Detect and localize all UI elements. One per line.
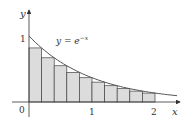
x-axis-label: x (172, 106, 178, 117)
riemann-rectangle (29, 48, 42, 102)
riemann-rectangle (67, 72, 80, 102)
y-tick-1-label: 1 (20, 34, 26, 44)
origin-label: 0 (19, 105, 25, 115)
riemann-rectangle (130, 91, 143, 102)
riemann-rectangles (29, 48, 155, 102)
riemann-sum-diagram: y x 0 1 1 2 y = e−x (0, 0, 193, 127)
function-label: y = e−x (55, 34, 89, 46)
x-tick-1-label: 1 (89, 107, 95, 117)
riemann-rectangle (54, 66, 67, 102)
riemann-rectangle (105, 86, 118, 102)
riemann-rectangle (117, 89, 130, 102)
y-axis-label: y (19, 8, 26, 19)
riemann-rectangle (79, 78, 92, 102)
riemann-rectangle (42, 58, 55, 102)
riemann-rectangle (142, 93, 155, 102)
x-tick-2-label: 2 (151, 107, 157, 117)
riemann-rectangle (92, 82, 105, 102)
